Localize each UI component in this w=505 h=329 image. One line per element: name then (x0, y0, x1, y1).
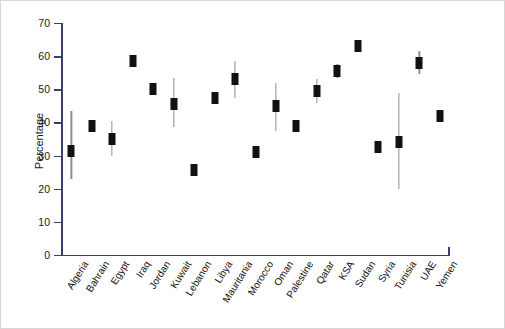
data-point-marker[interactable] (191, 164, 198, 176)
x-axis-labels: AlgeriaBahrainEgyptIraqJordanKuwaitLeban… (61, 257, 450, 329)
data-point-marker[interactable] (375, 141, 382, 153)
y-axis-tick-label: 60 (38, 50, 50, 62)
y-axis-tick (54, 222, 61, 223)
data-point-marker[interactable] (272, 100, 279, 112)
data-point-marker[interactable] (395, 136, 402, 148)
data-point-marker[interactable] (232, 73, 239, 85)
data-point-marker[interactable] (88, 120, 95, 132)
x-axis-tick-label: Egypt (109, 259, 132, 287)
data-point-marker[interactable] (109, 133, 116, 145)
data-point-marker[interactable] (129, 55, 136, 67)
data-point-marker[interactable] (252, 146, 259, 158)
y-axis-tick (54, 89, 61, 90)
y-axis-tick (54, 189, 61, 190)
x-axis-tick-label: UAE (418, 259, 438, 282)
y-axis-tick-label: 40 (38, 116, 50, 128)
data-point-marker[interactable] (354, 40, 361, 52)
y-axis-tick (54, 122, 61, 123)
y-axis-tick-label: 0 (44, 249, 50, 261)
y-axis-tick (54, 255, 61, 256)
y-axis-title-container: Percentage (5, 61, 25, 221)
data-point-marker[interactable] (416, 57, 423, 69)
data-point-marker[interactable] (211, 92, 218, 104)
plot-area: 010203040506070 (61, 23, 450, 255)
x-axis-tick-label: Sudan (353, 259, 378, 289)
y-axis-tick-label: 10 (38, 216, 50, 228)
data-point-marker[interactable] (313, 85, 320, 97)
y-axis-tick (54, 56, 61, 57)
data-point-marker[interactable] (170, 98, 177, 110)
chart-frame: Percentage 010203040506070 AlgeriaBahrai… (0, 0, 505, 329)
y-axis-tick-label: 20 (38, 183, 50, 195)
y-axis-tick (54, 23, 61, 24)
data-point-marker[interactable] (334, 65, 341, 77)
data-point-marker[interactable] (68, 145, 75, 157)
y-axis-tick-label: 50 (38, 83, 50, 95)
y-axis-tick-label: 30 (38, 150, 50, 162)
x-axis-tick-label: Qatar (314, 259, 337, 286)
x-axis-tick-label: Iraq (134, 259, 152, 279)
data-point-marker[interactable] (150, 83, 157, 95)
data-point-marker[interactable] (436, 110, 443, 122)
y-axis-tick (54, 156, 61, 157)
x-axis-tick-label: KSA (337, 259, 357, 282)
y-axis-tick-label: 70 (38, 17, 50, 29)
data-point-marker[interactable] (293, 120, 300, 132)
